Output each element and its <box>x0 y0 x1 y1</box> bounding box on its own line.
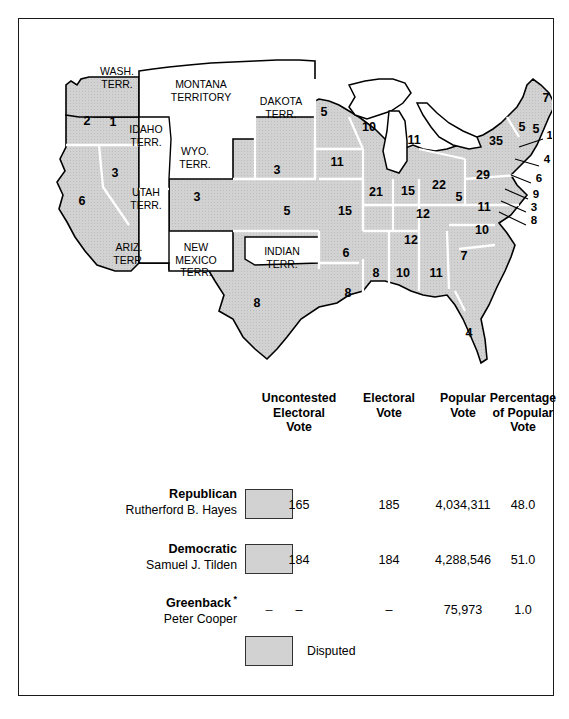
territory-label: WASH.TERR. <box>100 65 134 90</box>
candidate-name: Rutherford B. Hayes <box>39 503 237 519</box>
electoral-vote-number: 11 <box>429 266 442 280</box>
figure-frame: WASH.TERR.MONTANATERRITORYDAKOTATERR.IDA… <box>18 18 554 696</box>
column-header: Uncontested Electoral Vote <box>251 391 347 435</box>
electoral-vote-cell: – <box>353 603 425 617</box>
callout-vote-number: 6 <box>536 172 542 184</box>
electoral-vote-number: 8 <box>373 266 380 280</box>
states-fill <box>57 79 552 363</box>
electoral-vote-number: 5 <box>321 105 328 119</box>
footnote-marker: * <box>231 594 237 604</box>
uncontested-electoral-vote-cell: 184 <box>251 553 347 567</box>
electoral-vote-number: 15 <box>338 204 352 218</box>
electoral-vote-number: 10 <box>362 120 376 134</box>
electoral-vote-number: 10 <box>475 223 489 237</box>
party-row-label: Greenback *Peter Cooper <box>39 592 237 627</box>
electoral-vote-number: 5 <box>533 122 540 136</box>
legend-swatch <box>245 636 293 666</box>
electoral-vote-number: 10 <box>396 266 410 280</box>
territory-label: MONTANATERRITORY <box>171 78 231 103</box>
territory-label: DAKOTATERR. <box>260 95 302 120</box>
party-name: Republican <box>39 487 237 503</box>
map-svg: WASH.TERR.MONTANATERRITORYDAKOTATERR.IDA… <box>19 19 552 379</box>
electoral-vote-cell: 184 <box>353 553 425 567</box>
uncontested-electoral-vote-cell: – <box>251 603 347 617</box>
party-name: Greenback * <box>39 592 237 612</box>
callout-vote-number: 8 <box>531 214 538 226</box>
electoral-vote-number: 15 <box>401 184 415 198</box>
electoral-vote-number: 21 <box>369 185 383 199</box>
lake-huron-erie <box>417 103 481 149</box>
legend-label: Disputed <box>307 644 356 658</box>
electoral-vote-number: 11 <box>330 155 343 169</box>
party-row-label: RepublicanRutherford B. Hayes <box>39 487 237 518</box>
percentage-popular-vote-cell: 51.0 <box>475 553 569 567</box>
electoral-vote-number: 11 <box>407 133 420 147</box>
great-lakes <box>349 79 411 119</box>
lake-michigan <box>383 111 407 173</box>
electoral-vote-number: 29 <box>476 168 490 182</box>
electoral-vote-cell: 185 <box>353 498 425 512</box>
election-map: WASH.TERR.MONTANATERRITORYDAKOTATERR.IDA… <box>19 19 552 379</box>
electoral-vote-number: 3 <box>274 163 281 177</box>
electoral-vote-number: 11 <box>477 200 490 214</box>
electoral-vote-number: 6 <box>79 194 86 208</box>
electoral-vote-number: 3 <box>112 166 119 180</box>
territory-label: INDIANTERR. <box>264 245 300 270</box>
column-header: Percentage of Popular Vote <box>475 391 569 435</box>
callout-vote-number: 4 <box>544 153 551 165</box>
party-row-label: DemocraticSamuel J. Tilden <box>39 542 237 573</box>
electoral-vote-number: 12 <box>416 207 430 221</box>
electoral-vote-number: 2 <box>84 114 91 128</box>
electoral-vote-number: 12 <box>404 233 418 247</box>
uncontested-electoral-vote-cell: 165 <box>251 498 347 512</box>
electoral-vote-number: 4 <box>466 326 473 340</box>
candidate-name: Peter Cooper <box>39 612 237 628</box>
electoral-vote-number: 7 <box>461 249 468 263</box>
territory-label: UTAHTERR. <box>130 186 162 211</box>
callout-vote-number: 9 <box>533 188 539 200</box>
column-header: Electoral Vote <box>353 391 425 420</box>
territory-label: IDAHOTERR. <box>129 123 162 148</box>
party-name: Democratic <box>39 542 237 558</box>
percentage-popular-vote-cell: 1.0 <box>475 603 569 617</box>
candidate-name: Samuel J. Tilden <box>39 558 237 574</box>
callout-vote-number: 3 <box>531 201 537 213</box>
callout-vote-number: 13 <box>547 129 552 141</box>
results-table: Uncontested Electoral VoteElectoral Vote… <box>19 391 552 691</box>
electoral-vote-number: 5 <box>519 120 526 134</box>
electoral-vote-number: 1 <box>110 115 117 129</box>
electoral-vote-number: 3 <box>194 190 201 204</box>
electoral-vote-number: 8 <box>254 296 261 310</box>
electoral-vote-number: 35 <box>489 134 503 148</box>
territory-label: ARIZ.TERR. <box>113 241 145 266</box>
electoral-vote-number: 5 <box>456 190 463 204</box>
electoral-vote-number: 8 <box>345 286 352 300</box>
electoral-vote-number: 5 <box>284 204 291 218</box>
electoral-vote-number: 7 <box>543 91 550 105</box>
percentage-popular-vote-cell: 48.0 <box>475 498 569 512</box>
territory-label: WYO.TERR. <box>179 145 211 170</box>
electoral-vote-number: 22 <box>432 178 446 192</box>
electoral-vote-number: 6 <box>343 246 350 260</box>
